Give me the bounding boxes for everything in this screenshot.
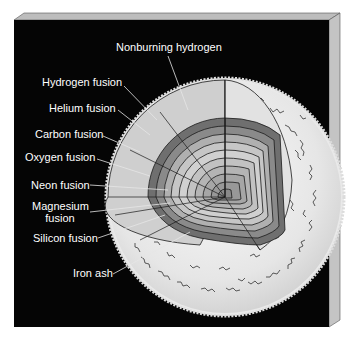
label-neon-fusion: Neon fusion [31,179,90,191]
label-magnesium-fusion-line1: Magnesium [32,200,88,212]
label-oxygen-fusion: Oxygen fusion [25,151,95,163]
label-magnesium-fusion-line2: fusion [32,212,88,224]
panel-top-bevel [14,13,340,20]
label-magnesium-fusion: Magnesium fusion [32,200,88,224]
label-carbon-fusion: Carbon fusion [35,128,104,140]
label-hydrogen-fusion: Hydrogen fusion [42,76,122,88]
label-iron-ash: Iron ash [73,267,113,279]
label-silicon-fusion: Silicon fusion [33,232,98,244]
label-nonburning-hydrogen: Nonburning hydrogen [116,41,222,53]
label-helium-fusion: Helium fusion [49,102,116,114]
star-sphere [105,78,344,316]
star-structure-diagram: Nonburning hydrogen Hydrogen fusion Heli… [0,0,351,343]
